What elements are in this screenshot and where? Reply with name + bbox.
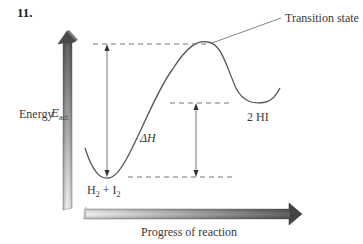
enthalpy-change-label: ΔH bbox=[140, 131, 156, 146]
transition-state-label: Transition state bbox=[285, 11, 359, 26]
energy-diagram bbox=[0, 0, 363, 244]
reference-lines bbox=[93, 44, 232, 177]
enthalpy-arrow bbox=[194, 103, 199, 177]
transition-state-leader bbox=[212, 18, 281, 43]
products-label: 2 HI bbox=[247, 110, 269, 125]
energy-axis-label: Energy bbox=[19, 107, 53, 122]
progress-axis-arrow bbox=[84, 203, 302, 225]
progress-axis-label: Progress of reaction bbox=[141, 225, 237, 240]
activation-energy-arrow bbox=[105, 44, 110, 177]
reactants-label: H2 + I2 bbox=[87, 183, 120, 199]
problem-number: 11. bbox=[17, 5, 33, 21]
activation-energy-label: Eact bbox=[51, 105, 68, 122]
